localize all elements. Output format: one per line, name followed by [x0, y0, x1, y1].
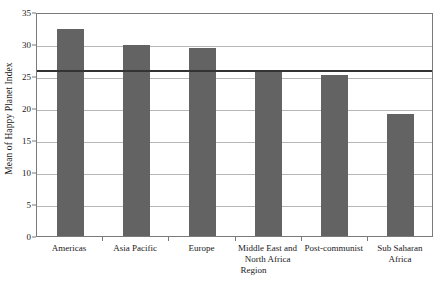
x-axis-tick-mark [168, 237, 169, 241]
y-axis-tick-label: 5 [27, 201, 32, 210]
y-axis-tick-label: 15 [22, 137, 31, 146]
y-axis-tick-label: 10 [22, 169, 31, 178]
bars-layer [37, 14, 432, 236]
y-axis-tick-label: 30 [22, 41, 31, 50]
x-axis-ticks [36, 237, 433, 242]
x-axis-category-label: Americas [36, 243, 102, 254]
x-axis-tick-mark [367, 237, 368, 241]
x-axis-tick-mark [102, 237, 103, 241]
bar [57, 29, 84, 236]
x-axis-labels: AmericasAsia PacificEuropeMiddle East an… [36, 243, 433, 279]
bar [321, 75, 348, 236]
x-axis-category-label: Sub Saharan Africa [367, 243, 433, 265]
y-axis-tick-label: 25 [22, 73, 31, 82]
x-axis-category-label: Asia Pacific [102, 243, 168, 254]
bar [189, 48, 216, 236]
x-axis-category-label: Middle East and North Africa [235, 243, 301, 265]
bar [387, 114, 414, 236]
bar [123, 45, 150, 236]
x-axis-title: Region [241, 265, 267, 276]
plot-area [36, 13, 433, 237]
x-axis-category-label: Europe [168, 243, 234, 254]
y-axis-ticks: 05101520253035 [0, 13, 36, 237]
x-axis-category-label: Post-communist [301, 243, 367, 254]
x-axis-tick-mark [235, 237, 236, 241]
y-axis-tick-label: 0 [27, 233, 32, 242]
reference-line [37, 70, 432, 71]
y-axis-tick-label: 20 [22, 105, 31, 114]
bar-chart: Mean of Happy Planet Index 0510152025303… [0, 0, 445, 292]
x-axis-tick-mark [301, 237, 302, 241]
bar [255, 72, 282, 236]
y-axis-tick-label: 35 [22, 9, 31, 18]
